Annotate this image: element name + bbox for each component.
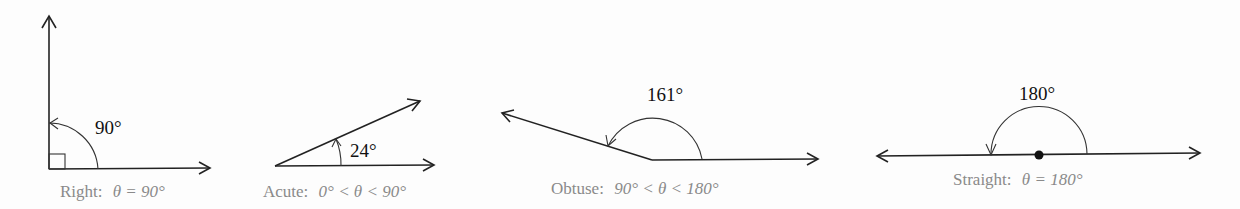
- right-angle-figure: 90°: [42, 16, 210, 174]
- caption-obtuse: Obtuse: 90° < θ < 180°: [551, 179, 719, 198]
- caption-right: Right: θ = 90°: [60, 182, 165, 201]
- right-angle-marker: [49, 154, 65, 169]
- angle-measure: 90°: [95, 117, 122, 138]
- arrowhead-icon: [407, 99, 420, 111]
- left-ray: [502, 113, 652, 160]
- caption-acute: Acute: 0° < θ < 90°: [263, 182, 406, 201]
- vertex-dot: [1035, 151, 1044, 160]
- angle-measure: 180°: [1019, 83, 1055, 104]
- upper-ray: [275, 101, 420, 166]
- angle-arc: [49, 123, 98, 169]
- angle-measure: 24°: [350, 140, 377, 161]
- straight-angle-figure: 180°: [877, 83, 1200, 162]
- angle-diagram: 90° Right: θ = 90° 24° Acute: 0° < θ < 9…: [0, 0, 1240, 209]
- acute-angle-figure: 24°: [275, 99, 434, 171]
- obtuse-angle-figure: 161°: [502, 84, 818, 165]
- lower-ray: [275, 165, 434, 166]
- horizontal-ray: [49, 168, 210, 169]
- angle-arc: [608, 118, 702, 159]
- caption-straight: Straight: θ = 180°: [953, 170, 1083, 189]
- angle-arc: [991, 107, 1087, 155]
- right-ray: [652, 159, 818, 160]
- angle-measure: 161°: [647, 84, 683, 105]
